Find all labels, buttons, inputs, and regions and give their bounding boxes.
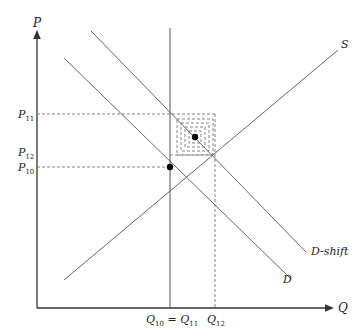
demand-curve [64,58,290,278]
dashed-guides [37,114,215,308]
price-label-p10: P10 [17,161,34,176]
supply-curve [64,50,338,280]
demand-label: D [282,273,292,286]
supply-label: S [341,38,349,51]
price-label-p11: P11 [17,108,34,123]
x-axis-label: Q [338,301,348,315]
quantity-label-q10-q11: Q10 = Q11 [146,313,198,328]
demand-shift-curve [91,31,306,252]
y-axis-label: P [32,16,42,30]
equilibrium-point-original [167,164,173,170]
equilibrium-point-shifted [192,134,198,140]
demand-shift-label: D-shift [310,245,349,258]
cobweb-diagram: P Q S D D-shift P11 P12 P10 Q10 = Q11 Q1… [0,0,363,336]
price-label-p12: P12 [17,146,34,161]
quantity-label-q12: Q12 [207,313,225,328]
